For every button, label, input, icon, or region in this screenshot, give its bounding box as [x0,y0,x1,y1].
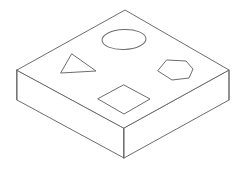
isometric-slab-scene [0,0,239,169]
slab-drawing [0,0,239,169]
